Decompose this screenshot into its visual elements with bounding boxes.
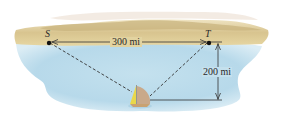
- horizontal-distance-label: 300 mi: [110, 37, 142, 47]
- point-s-label: S: [45, 29, 50, 39]
- vertical-distance-label: 200 mi: [202, 67, 232, 77]
- scene-graphic: [0, 0, 290, 134]
- point-t-label: T: [205, 29, 211, 39]
- hazy-sky-band: [50, 12, 258, 21]
- point-t-dot: [207, 41, 211, 45]
- point-s-dot: [47, 41, 51, 45]
- diagram-scene: S T 300 mi 200 mi: [0, 0, 290, 134]
